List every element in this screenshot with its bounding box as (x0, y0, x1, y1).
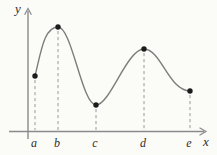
figure: y x abcde (0, 0, 217, 155)
tick-label-a: a (31, 136, 37, 150)
curve-point-b (55, 24, 60, 29)
x-axis-label: x (202, 134, 209, 149)
tick-label-e: e (186, 136, 192, 150)
tick-label-c: c (92, 136, 98, 150)
curve-point-a (32, 73, 37, 78)
tick-label-b: b (54, 136, 60, 150)
y-axis-label: y (13, 1, 21, 16)
curve-plot: y x abcde (0, 0, 217, 155)
curve-point-e (187, 88, 192, 93)
curve-point-d (141, 46, 146, 51)
curve-point-c (93, 102, 98, 107)
tick-label-d: d (140, 136, 147, 150)
